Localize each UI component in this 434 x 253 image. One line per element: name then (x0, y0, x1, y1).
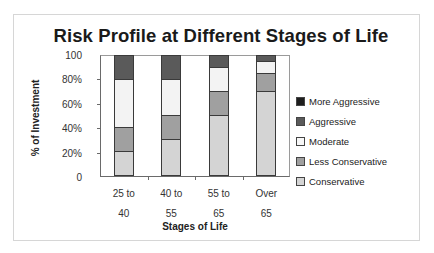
bar-segment-moderate (114, 79, 134, 128)
chart-title: Risk Profile at Different Stages of Life (0, 25, 434, 47)
bar-segment-conservative (209, 115, 229, 176)
legend-item: Less Conservative (296, 151, 414, 171)
legend-label: More Aggressive (309, 96, 380, 107)
x-axis-label: Stages of Life (100, 221, 290, 232)
legend: More AggressiveAggressiveModerateLess Co… (296, 91, 414, 191)
legend-label: Aggressive (309, 116, 356, 127)
stacked-bar (161, 56, 181, 176)
legend-label: Moderate (309, 136, 349, 147)
bar-segment-aggressive (161, 55, 181, 80)
legend-item: Conservative (296, 171, 414, 191)
x-tick-label: 55 to65 (195, 184, 243, 224)
y-tick-mark (97, 104, 101, 105)
stacked-bar (256, 56, 276, 176)
legend-item: Aggressive (296, 111, 414, 131)
legend-item: More Aggressive (296, 91, 414, 111)
legend-label: Less Conservative (309, 156, 387, 167)
stacked-bar (114, 56, 134, 176)
legend-item: Moderate (296, 131, 414, 151)
legend-swatch-icon (296, 97, 305, 106)
bar-segment-moderate (209, 67, 229, 92)
legend-swatch-icon (296, 117, 305, 126)
bar-segment-less-conservative (209, 91, 229, 116)
stacked-bar (209, 56, 229, 176)
x-tick-label: 25 to40 (100, 184, 148, 224)
y-tick-mark (97, 153, 101, 154)
y-axis-label: % of Investment (30, 80, 41, 157)
y-tick-label: 100 (65, 50, 82, 61)
y-tick-label: 20% (62, 147, 82, 158)
y-tick-label: 80% (62, 74, 82, 85)
bar-segment-less-conservative (114, 127, 134, 152)
y-tick-label: 60% (62, 98, 82, 109)
bar-segment-conservative (114, 151, 134, 176)
legend-swatch-icon (296, 137, 305, 146)
x-tick-label-line: 55 to (195, 184, 243, 204)
bar-segment-aggressive (114, 55, 134, 80)
y-tick-mark (97, 79, 101, 80)
bar-segment-less-conservative (161, 115, 181, 140)
bar-segment-moderate (161, 79, 181, 116)
legend-label: Conservative (309, 176, 364, 187)
bar-segment-conservative (256, 91, 276, 176)
y-tick-mark (97, 128, 101, 129)
x-tick-label: 40 to55 (147, 184, 195, 224)
x-tick-label-line: 25 to (100, 184, 148, 204)
plot-area (100, 55, 290, 177)
x-tick-mark (148, 176, 149, 180)
legend-swatch-icon (296, 177, 305, 186)
bar-segment-less-conservative (256, 73, 276, 92)
x-tick-label-line: 40 to (147, 184, 195, 204)
legend-swatch-icon (296, 157, 305, 166)
x-tick-label: Over65 (242, 184, 290, 224)
x-tick-label-line: Over (242, 184, 290, 204)
x-tick-mark (195, 176, 196, 180)
x-tick-mark (243, 176, 244, 180)
bar-segment-conservative (161, 139, 181, 176)
y-tick-label: 40% (62, 123, 82, 134)
y-tick-label: 0 (76, 172, 82, 183)
